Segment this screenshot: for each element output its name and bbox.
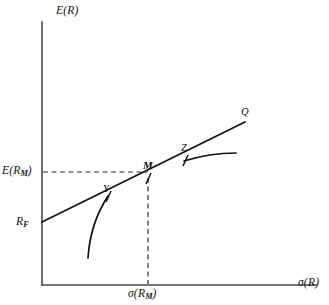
sigma-r-m-subscript: M bbox=[145, 292, 152, 301]
e-r-m-subscript: M bbox=[21, 169, 28, 178]
capital-market-line-figure: E(R) σ(R) E(RM) RF σ(RM) Y M Z Q bbox=[0, 0, 329, 305]
r-f-subscript: F bbox=[23, 220, 29, 229]
y-intercept-label-risk-free-rate: RF bbox=[16, 216, 29, 229]
efficient-frontier-upper-arc bbox=[184, 153, 236, 161]
x-axis-label: σ(R) bbox=[298, 277, 319, 289]
e-r-m-suffix: ) bbox=[28, 164, 32, 176]
point-label-q: Q bbox=[241, 107, 249, 118]
y-axis-label: E(R) bbox=[56, 5, 79, 17]
efficient-frontier-lower-arc bbox=[88, 196, 108, 258]
point-label-m: M bbox=[143, 160, 153, 171]
point-label-y: Y bbox=[103, 184, 109, 195]
chart-canvas bbox=[0, 0, 329, 305]
point-label-z: Z bbox=[181, 143, 187, 154]
e-r-m-var: R bbox=[13, 164, 20, 176]
y-tick-label-expected-market-return: E(RM) bbox=[2, 165, 32, 178]
sigma-r-m-prefix: σ( bbox=[128, 287, 138, 299]
sigma-r-m-suffix: ) bbox=[153, 287, 157, 299]
e-r-m-prefix: E( bbox=[2, 164, 13, 176]
x-tick-label-market-sigma: σ(RM) bbox=[128, 288, 157, 301]
